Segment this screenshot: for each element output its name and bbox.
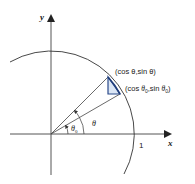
theta-angle-arc-outer bbox=[80, 118, 85, 135]
theta0-angle-label: θ0 bbox=[71, 124, 78, 134]
y-axis-label: y bbox=[39, 12, 45, 22]
x-axis-label: x bbox=[167, 138, 173, 148]
theta-point-label: (cos θ,sin θ) bbox=[115, 67, 156, 76]
theta-angle-arc-inner bbox=[75, 111, 80, 118]
unit-tick-label: 1 bbox=[139, 141, 144, 150]
theta0-angle-arc bbox=[66, 126, 68, 135]
theta-angle-label: θ bbox=[92, 119, 96, 128]
theta0-point-label: (cos θ0,sin θ0) bbox=[125, 84, 171, 94]
unit-circle-diagram: y x 1 (cos θ,sin θ) (cos θ0,sin θ0) θ θ0 bbox=[0, 0, 195, 184]
